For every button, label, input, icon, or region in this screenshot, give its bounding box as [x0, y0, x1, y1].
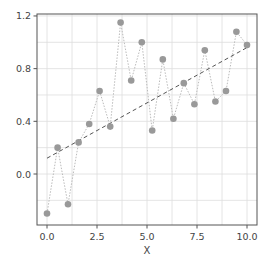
x-tick-label: 2.5 [89, 231, 104, 242]
data-point [107, 123, 114, 130]
data-point [170, 115, 177, 122]
data-point [117, 19, 124, 26]
x-tick-label: 7.5 [189, 231, 204, 242]
y-tick-label: 0.4 [16, 116, 31, 127]
data-point [202, 47, 209, 54]
y-axis-ticks: 0.00.40.81.2 [16, 10, 37, 179]
data-point [223, 88, 230, 95]
data-point [96, 88, 103, 95]
data-point [149, 127, 156, 134]
data-point [86, 121, 93, 128]
data-point [191, 101, 198, 108]
data-point [160, 56, 167, 63]
x-tick-label: 5.0 [139, 231, 154, 242]
x-axis-ticks: 0.02.55.07.510.0 [39, 225, 257, 242]
data-point [181, 80, 188, 87]
x-axis-label: X [144, 245, 151, 256]
data-point [54, 144, 61, 151]
x-tick-label: 0.0 [39, 231, 54, 242]
data-point [44, 210, 51, 217]
data-point [139, 39, 146, 46]
scatter-chart: 0.02.55.07.510.0 0.00.40.81.2 X [0, 0, 270, 269]
data-point [65, 201, 72, 208]
y-tick-label: 0.0 [16, 169, 31, 180]
x-tick-label: 10.0 [236, 231, 257, 242]
data-point [128, 77, 135, 84]
data-point [212, 98, 219, 105]
y-tick-label: 0.8 [16, 63, 31, 74]
data-point [75, 139, 82, 146]
y-tick-label: 1.2 [16, 10, 31, 21]
data-point [244, 42, 251, 49]
data-point [233, 28, 240, 35]
